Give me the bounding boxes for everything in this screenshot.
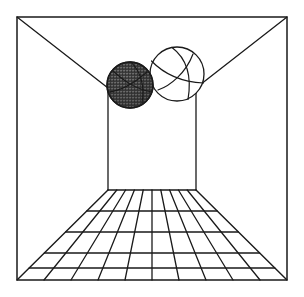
- figure-root: Perspective room with two spheres Hand-d…: [0, 0, 304, 297]
- light-sphere-group: [150, 47, 204, 101]
- dark-sphere-group: [107, 62, 153, 108]
- light-sphere-outline: [150, 47, 204, 101]
- perspective-room-illustration: [0, 0, 304, 297]
